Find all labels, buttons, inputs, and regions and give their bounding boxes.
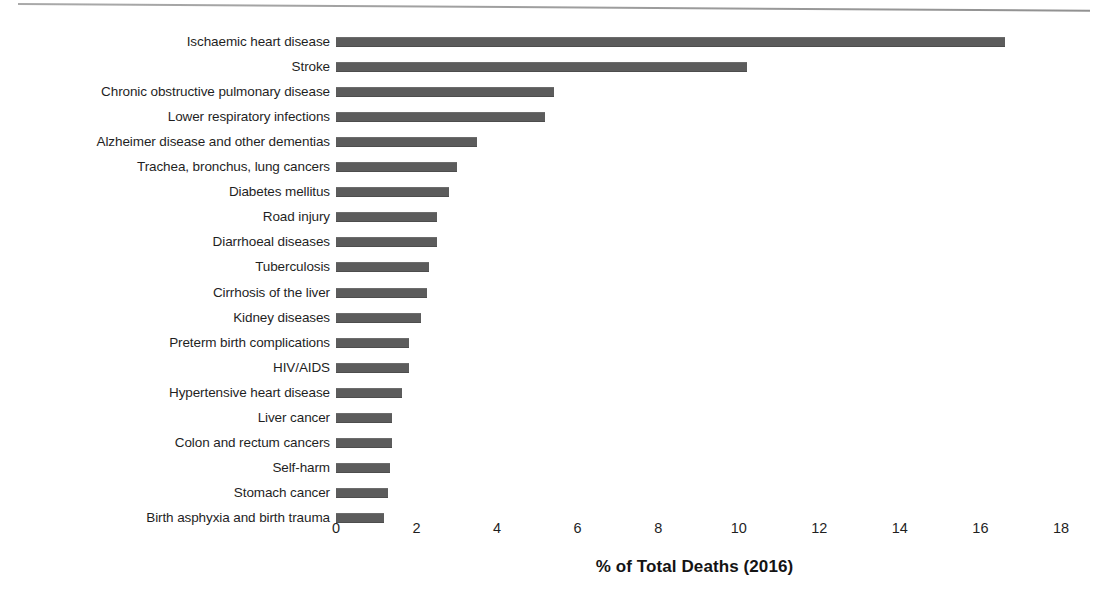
category-label: Cirrhosis of the liver (30, 282, 330, 304)
bar (336, 388, 402, 398)
x-tick-label: 10 (719, 517, 759, 539)
x-tick-label: 4 (477, 517, 517, 539)
category-label: Hypertensive heart disease (30, 382, 330, 404)
bar-row: Kidney diseases (0, 307, 1107, 329)
category-label: Kidney diseases (30, 307, 330, 329)
bar-row: Ischaemic heart disease (0, 31, 1107, 53)
bar-row: Liver cancer (0, 407, 1107, 429)
x-tick-label: 2 (397, 517, 437, 539)
bar-row: HIV/AIDS (0, 357, 1107, 379)
x-tick-label: 0 (316, 517, 356, 539)
x-axis-title-text: % of Total Deaths (2016) (596, 557, 794, 576)
category-label: Chronic obstructive pulmonary disease (30, 81, 330, 103)
x-tick-label: 6 (558, 517, 598, 539)
bar-row: Cirrhosis of the liver (0, 282, 1107, 304)
category-label: Trachea, bronchus, lung cancers (30, 156, 330, 178)
bar-row: Alzheimer disease and other dementias (0, 131, 1107, 153)
x-axis-title: % of Total Deaths (2016) (0, 557, 1107, 577)
bar (336, 237, 437, 247)
bar (336, 288, 427, 298)
bar (336, 37, 1005, 47)
bar (336, 162, 457, 172)
category-label: Stomach cancer (30, 482, 330, 504)
bar (336, 313, 421, 323)
bar-row: Self-harm (0, 457, 1107, 479)
bar (336, 212, 437, 222)
bar (336, 62, 747, 72)
category-label: Alzheimer disease and other dementias (30, 131, 330, 153)
category-label: HIV/AIDS (30, 357, 330, 379)
bar (336, 137, 477, 147)
category-label: Diabetes mellitus (30, 181, 330, 203)
bar (336, 112, 545, 122)
bar (336, 262, 429, 272)
bar (336, 488, 388, 498)
category-label: Preterm birth complications (30, 332, 330, 354)
category-label: Liver cancer (30, 407, 330, 429)
bar-row: Tuberculosis (0, 256, 1107, 278)
bar-row: Stomach cancer (0, 482, 1107, 504)
category-label: Colon and rectum cancers (30, 432, 330, 454)
bar-row: Road injury (0, 206, 1107, 228)
horizontal-bar-chart: Ischaemic heart diseaseStrokeChronic obs… (0, 0, 1107, 604)
x-tick-label: 18 (1041, 517, 1081, 539)
category-label: Self-harm (30, 457, 330, 479)
x-tick-label: 8 (638, 517, 678, 539)
bar-row: Trachea, bronchus, lung cancers (0, 156, 1107, 178)
category-label: Lower respiratory infections (30, 106, 330, 128)
category-label: Stroke (30, 56, 330, 78)
category-label: Ischaemic heart disease (30, 31, 330, 53)
x-tick-label: 14 (880, 517, 920, 539)
bar (336, 187, 449, 197)
bar-row: Diarrhoeal diseases (0, 231, 1107, 253)
bar-row: Colon and rectum cancers (0, 432, 1107, 454)
category-label: Tuberculosis (30, 256, 330, 278)
bar-row: Lower respiratory infections (0, 106, 1107, 128)
bar (336, 463, 390, 473)
category-label: Diarrhoeal diseases (30, 231, 330, 253)
bar (336, 363, 409, 373)
bar (336, 338, 409, 348)
bar-row: Diabetes mellitus (0, 181, 1107, 203)
bar (336, 87, 554, 97)
bar (336, 438, 392, 448)
bar (336, 413, 392, 423)
x-tick-label: 16 (960, 517, 1000, 539)
bar-row: Chronic obstructive pulmonary disease (0, 81, 1107, 103)
bar-row: Hypertensive heart disease (0, 382, 1107, 404)
x-axis-tick-labels: 024681012141618 (0, 517, 1107, 543)
category-label: Road injury (30, 206, 330, 228)
bar-row: Preterm birth complications (0, 332, 1107, 354)
bar-row: Stroke (0, 56, 1107, 78)
x-tick-label: 12 (799, 517, 839, 539)
